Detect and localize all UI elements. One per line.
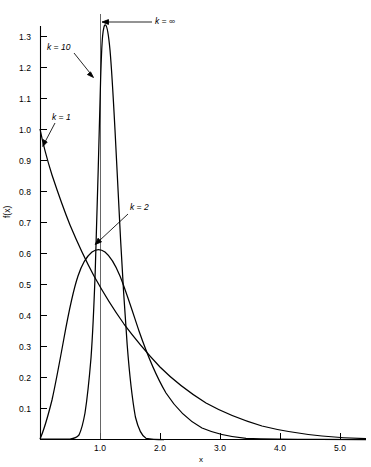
ytick-label-0.7: 0.7 [5,218,31,228]
x-axis-title: x [199,455,203,464]
ytick-label-0.2: 0.2 [5,373,31,383]
curve-k1 [40,129,366,439]
curve-label-k10: k = 10 [47,42,70,52]
ytick-label-1.0: 1.0 [5,125,31,135]
curve-label-k1: k = 1 [52,112,71,122]
ytick-label-1.1: 1.1 [5,94,31,104]
y-axis-title: f(x) [2,206,12,218]
curve-label-k2: k = 2 [130,202,149,212]
ytick-label-0.3: 0.3 [5,342,31,352]
ytick-label-0.4: 0.4 [5,311,31,321]
ytick-label-0.6: 0.6 [5,249,31,259]
curve-k10 [40,25,164,440]
ytick-label-0.5: 0.5 [5,280,31,290]
xtick-label-2.0: 2.0 [147,443,173,453]
ytick-label-0.9: 0.9 [5,156,31,166]
plot-canvas [0,0,371,467]
xtick-label-3.0: 3.0 [207,443,233,453]
curve-label-k-infinity: k = ∞ [155,16,175,26]
annotation-arrow-k10 [74,53,94,78]
curve-k2 [40,250,366,440]
ytick-label-0.8: 0.8 [5,187,31,197]
ytick-label-1.3: 1.3 [5,32,31,42]
ytick-label-0.1: 0.1 [5,404,31,414]
ytick-label-1.2: 1.2 [5,63,31,73]
xtick-label-5.0: 5.0 [327,443,353,453]
xtick-label-1.0: 1.0 [87,443,113,453]
annotation-arrow-k1 [43,123,55,147]
weibull-pdf-chart: 0.1 0.2 0.3 0.4 0.5 0.6 0.7 0.8 0.9 1.0 … [0,0,371,467]
xtick-label-4.0: 4.0 [267,443,293,453]
annotation-arrow-k-infinity [102,20,152,25]
